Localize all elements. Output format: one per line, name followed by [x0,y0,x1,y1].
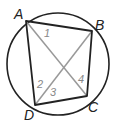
angle-label-4: 4 [78,73,84,85]
vertex-label-b: B [95,17,104,33]
angle-label-2: 2 [36,78,43,90]
geometry-diagram: A B C D 1 2 3 4 [0,0,113,125]
angle-label-3: 3 [50,86,57,98]
vertex-label-a: A [13,6,23,22]
vertex-label-c: C [88,99,99,115]
vertex-label-d: D [24,107,34,123]
angle-label-1: 1 [44,27,50,39]
